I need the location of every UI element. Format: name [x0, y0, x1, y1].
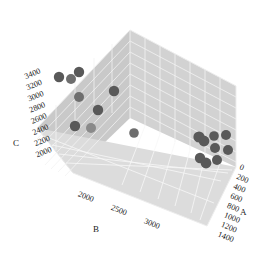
- data-point: [74, 67, 84, 77]
- c-axis-ticks: 34003200300028002600240022002000: [23, 67, 53, 160]
- axis-tick-label: 2500: [110, 203, 129, 217]
- data-point: [129, 128, 139, 138]
- axis-tick-label: 0: [238, 163, 245, 173]
- data-point: [199, 136, 210, 147]
- axis-tick-label: 2000: [77, 189, 96, 203]
- b-axis-title: B: [93, 224, 99, 234]
- data-point: [54, 72, 64, 82]
- data-point: [93, 105, 103, 115]
- scatter3d-plot: 34003200300028002600240022002000 C 20002…: [0, 0, 275, 263]
- data-point: [70, 121, 80, 131]
- plot-canvas: 34003200300028002600240022002000 C 20002…: [0, 0, 275, 263]
- a-axis-title: A: [240, 207, 247, 217]
- data-point: [210, 143, 220, 153]
- data-point: [221, 130, 231, 140]
- data-point: [201, 158, 212, 169]
- c-axis-title: C: [13, 138, 19, 148]
- data-point: [212, 155, 222, 165]
- data-point: [86, 123, 96, 133]
- data-point: [109, 86, 119, 96]
- data-point: [74, 92, 84, 102]
- data-point: [66, 74, 76, 84]
- axis-tick-label: 3000: [143, 216, 162, 230]
- data-point: [209, 131, 219, 141]
- data-point: [223, 145, 233, 155]
